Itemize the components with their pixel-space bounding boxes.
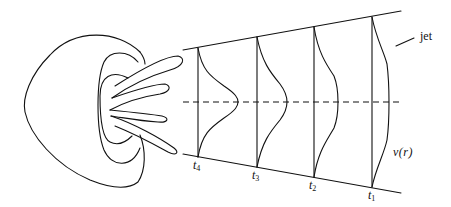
tentacle-1 bbox=[112, 56, 183, 98]
mantle-opening-outer bbox=[98, 53, 140, 163]
tentacles bbox=[110, 56, 183, 154]
time-label-t4: t4 bbox=[193, 159, 200, 173]
time-label-t3-sub: 3 bbox=[255, 174, 259, 183]
jet-leader-line bbox=[396, 38, 414, 46]
tentacle-2 bbox=[110, 84, 169, 110]
time-label-t1: t1 bbox=[368, 189, 375, 203]
squid-mantle-top bbox=[140, 52, 145, 64]
time-label-t4-sub: 4 bbox=[196, 164, 200, 173]
jet-label: jet bbox=[420, 30, 432, 42]
velocity-profile-label: v(r) bbox=[393, 146, 413, 158]
squid-body bbox=[24, 35, 145, 187]
time-label-t3: t3 bbox=[252, 169, 259, 183]
squid-mantle-outline bbox=[24, 35, 144, 187]
time-label-t2-sub: 2 bbox=[312, 184, 316, 193]
tentacle-3 bbox=[110, 110, 167, 122]
time-label-t1-sub: 1 bbox=[371, 194, 375, 203]
jet-boundary-upper bbox=[183, 11, 401, 50]
velocity-profile-t3 bbox=[257, 37, 287, 167]
squid-jet-diagram bbox=[0, 0, 451, 207]
time-label-t2: t2 bbox=[309, 179, 316, 193]
